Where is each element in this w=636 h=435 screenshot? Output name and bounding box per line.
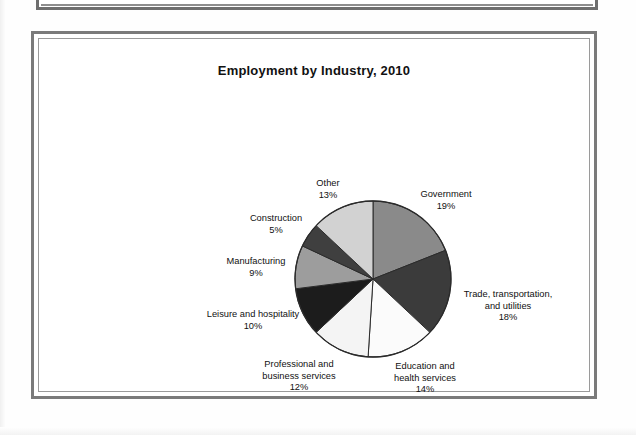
pie-label-education-health-services: Education and health services 14% (375, 361, 475, 396)
figure-frame: Employment by Industry, 2010 (31, 31, 597, 399)
pie-label-education-name-line2: health services (375, 373, 475, 385)
pie-label-education-name-line1: Education and (375, 361, 475, 373)
partial-box-above (36, 0, 598, 10)
pie-chart (293, 199, 453, 359)
figure-inner-border: Employment by Industry, 2010 (38, 38, 590, 392)
pie-label-professional-business-services: Professional and business services 12% (241, 359, 357, 394)
pie-label-manufacturing-name: Manufacturing (213, 256, 299, 268)
pie-label-other-name: Other (297, 178, 359, 190)
pie-label-construction-name: Construction (235, 213, 317, 225)
pie-label-trade-value: 18% (453, 312, 563, 324)
pie-label-government: Government 19% (403, 189, 489, 212)
pie-label-education-value: 14% (375, 384, 475, 396)
pie-label-trade-transportation-utilities: Trade, transportation, and utilities 18% (453, 289, 563, 324)
pie-chart-svg (293, 199, 453, 359)
pie-label-leisure-name: Leisure and hospitality (185, 309, 321, 321)
page-edge-shadow-bottom (0, 427, 636, 435)
pie-label-trade-name-line1: Trade, transportation, (453, 289, 563, 301)
pie-label-leisure-hospitality: Leisure and hospitality 10% (185, 309, 321, 332)
pie-label-other-value: 13% (297, 190, 359, 202)
pie-label-other: Other 13% (297, 178, 359, 201)
pie-label-government-value: 19% (403, 201, 489, 213)
pie-label-professional-name-line2: business services (241, 371, 357, 383)
pie-label-manufacturing-value: 9% (213, 268, 299, 280)
chart-title: Employment by Industry, 2010 (39, 63, 589, 78)
pie-label-trade-name-line2: and utilities (453, 301, 563, 313)
pie-label-manufacturing: Manufacturing 9% (213, 256, 299, 279)
pie-label-leisure-value: 10% (185, 321, 321, 333)
pie-label-professional-value: 12% (241, 382, 357, 394)
pie-label-construction: Construction 5% (235, 213, 317, 236)
pie-label-construction-value: 5% (235, 225, 317, 237)
page-edge-shadow-left (0, 0, 6, 435)
pie-label-professional-name-line1: Professional and (241, 359, 357, 371)
scanned-page: Employment by Industry, 2010 (0, 0, 636, 435)
pie-label-government-name: Government (403, 189, 489, 201)
